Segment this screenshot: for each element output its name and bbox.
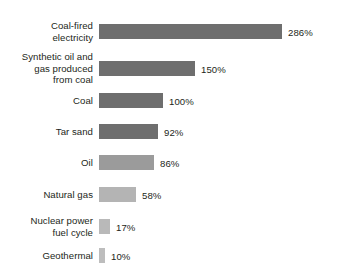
- bar: [99, 61, 195, 76]
- bar-row: Tar sand92%: [0, 120, 340, 143]
- bar-row: Coal-fired electricity286%: [0, 20, 340, 43]
- bar-category-label: Oil: [0, 157, 93, 169]
- bar: [99, 155, 154, 170]
- bar-category-label: Geothermal: [0, 250, 93, 262]
- bar-category-label: Nuclear power fuel cycle: [0, 215, 93, 238]
- bar-row: Nuclear power fuel cycle17%: [0, 215, 340, 238]
- bar-category-label: Coal: [0, 95, 93, 107]
- bar-category-label: Natural gas: [0, 189, 93, 201]
- bar-category-label: Coal-fired electricity: [0, 20, 93, 43]
- bar-value-label: 58%: [142, 189, 161, 200]
- bar-track: [99, 183, 136, 206]
- bar-value-label: 92%: [164, 126, 183, 137]
- bar-value-label: 86%: [160, 157, 179, 168]
- bar-row: Natural gas58%: [0, 183, 340, 206]
- bar-value-label: 10%: [111, 250, 130, 261]
- bar-row: Geothermal10%: [0, 244, 340, 267]
- bar: [99, 93, 163, 108]
- bar: [99, 219, 110, 234]
- bar-row: Oil86%: [0, 151, 340, 174]
- bar-value-label: 17%: [116, 221, 135, 232]
- bar-category-label: Synthetic oil and gas produced from coal: [0, 51, 93, 86]
- bar-track: [99, 20, 282, 43]
- bar-track: [99, 120, 158, 143]
- bar-row: Synthetic oil and gas produced from coal…: [0, 57, 340, 80]
- bar-track: [99, 151, 154, 174]
- bar-row: Coal100%: [0, 89, 340, 112]
- bar-value-label: 100%: [169, 95, 194, 106]
- bar-value-label: 150%: [201, 63, 226, 74]
- bar: [99, 124, 158, 139]
- bar-track: [99, 244, 105, 267]
- bar-chart: Coal-fired electricity286%Synthetic oil …: [0, 0, 340, 273]
- bar-category-label: Tar sand: [0, 126, 93, 138]
- bar-track: [99, 89, 163, 112]
- bar-value-label: 286%: [288, 26, 313, 37]
- bar: [99, 24, 282, 39]
- bar-track: [99, 215, 110, 238]
- bar: [99, 248, 105, 263]
- bar-track: [99, 57, 195, 80]
- bar: [99, 187, 136, 202]
